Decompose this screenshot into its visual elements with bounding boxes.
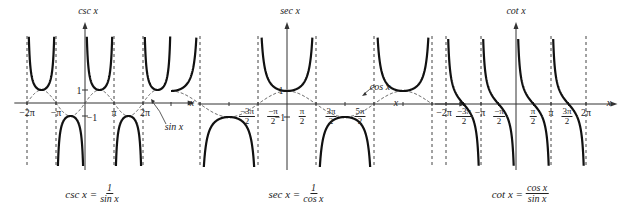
cot-tick-negpi2: −π2 <box>493 107 505 126</box>
sec-formula: sec x = 1cos x <box>268 183 323 204</box>
cot-formula: cot x = cos xsin x <box>492 183 549 204</box>
cot-tick-negpi: −π <box>475 108 486 118</box>
csc-tick-pi: π <box>111 108 116 118</box>
csc-tick-2pi: 2π <box>140 108 150 118</box>
cot-formula-lhs: cot x = <box>492 188 523 200</box>
csc-tick-y1: 1 <box>77 86 82 96</box>
cot-x-axis-label: x <box>607 98 611 108</box>
csc-tick-negpi: −π <box>51 108 62 118</box>
sec-tick-neg3pi2: −3π2 <box>239 107 255 126</box>
csc-y-axis-label: csc x <box>78 6 98 16</box>
csc-formula: csc x = 1sin x <box>65 183 118 204</box>
cot-formula-den: sin x <box>528 194 547 204</box>
csc-formula-lhs: csc x = <box>65 188 97 200</box>
csc-x-axis-label: x <box>190 98 194 108</box>
csc-tick-neg2pi: −2π <box>19 108 35 118</box>
csc-tick-yneg1: −1 <box>87 113 98 123</box>
sec-y-axis-label: sec x <box>280 6 300 16</box>
sec-cos-annotation: cos x <box>370 82 390 92</box>
cot-tick-neg2pi: −2π <box>436 108 452 118</box>
csc-sin-annotation: sin x <box>165 122 184 132</box>
sec-tick-pi2: π2 <box>299 107 306 126</box>
sec-tick-y1: 1 <box>279 86 284 96</box>
sec-x-axis-label: x <box>394 98 398 108</box>
cot-tick-pi2: π2 <box>530 107 537 126</box>
csc-formula-den: sin x <box>100 194 119 204</box>
cot-tick-neg3pi2: −3π2 <box>456 107 472 126</box>
cot-tick-2pi: 2π <box>581 108 591 118</box>
sec-formula-lhs: sec x = <box>268 188 300 200</box>
sec-tick-5pi2: 5π2 <box>354 107 365 126</box>
sec-tick-3pi2: 3π2 <box>325 107 336 126</box>
cot-tick-pi: π <box>548 108 553 118</box>
cot-y-axis-label: cot x <box>506 6 525 16</box>
sec-tick-yneg1: −1 <box>275 113 286 123</box>
sec-formula-den: cos x <box>303 194 323 204</box>
cot-tick-3pi2: 3π2 <box>561 107 572 126</box>
